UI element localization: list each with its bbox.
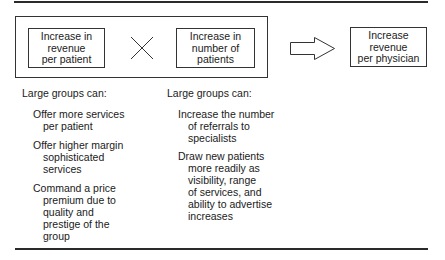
result-revenue-per-physician-box: Increase revenue per physician	[350, 27, 427, 67]
left-item-price-premium: Command a price premium due to quality a…	[33, 182, 116, 242]
factor-revenue-per-patient-box: Increase in revenue per patient	[28, 28, 105, 68]
result-line: Increase	[351, 30, 426, 42]
right-column-heading: Large groups can:	[167, 87, 252, 99]
item-line: increases	[178, 210, 272, 222]
item-line: group	[33, 230, 116, 242]
item-line: Increase the number	[178, 108, 274, 120]
right-item-referrals: Increase the number of referrals to spec…	[178, 108, 274, 144]
factor-number-of-patients-box: Increase in number of patients	[176, 28, 255, 68]
item-line: of services, and	[178, 186, 272, 198]
left-item-margin: Offer higher margin sophisticated servic…	[33, 139, 123, 175]
arrow-right-icon	[290, 37, 336, 61]
left-column-heading: Large groups can:	[22, 87, 107, 99]
item-line: sophisticated	[33, 151, 123, 163]
factor-left-line: Increase in	[29, 31, 104, 43]
item-line: prestige of the	[33, 218, 116, 230]
item-line: quality and	[33, 206, 116, 218]
left-item-services: Offer more services per patient	[33, 108, 124, 132]
right-item-new-patients: Draw new patients more readily as visibi…	[178, 150, 272, 222]
result-line: per physician	[351, 53, 426, 65]
bottom-rule	[15, 248, 428, 250]
item-line: specialists	[178, 132, 274, 144]
multiply-icon	[131, 37, 153, 59]
item-line: visibility, range	[178, 174, 272, 186]
item-line: of referrals to	[178, 120, 274, 132]
item-line: premium due to	[33, 194, 116, 206]
item-line: Command a price	[33, 182, 116, 194]
item-line: per patient	[33, 120, 124, 132]
item-line: ability to advertise	[178, 198, 272, 210]
item-line: Draw new patients	[178, 150, 272, 162]
factor-right-line: patients	[177, 54, 254, 66]
item-line: Offer more services	[33, 108, 124, 120]
factor-right-line: Increase in	[177, 31, 254, 43]
factor-left-line: per patient	[29, 54, 104, 66]
item-line: more readily as	[178, 162, 272, 174]
item-line: Offer higher margin	[33, 139, 123, 151]
item-line: services	[33, 163, 123, 175]
top-rule	[14, 1, 428, 3]
